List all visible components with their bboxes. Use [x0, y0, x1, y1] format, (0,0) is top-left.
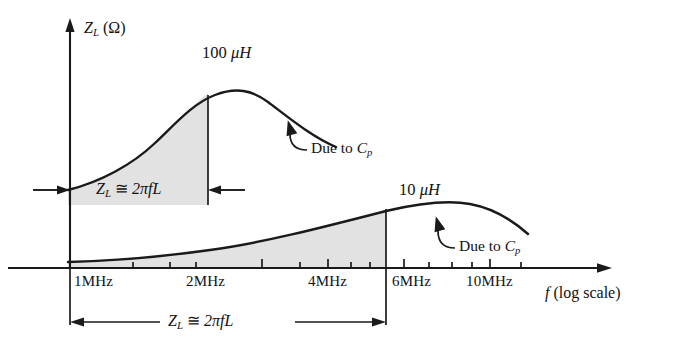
annotation-cp-10uh-subscript: p	[515, 245, 520, 256]
impedance-vs-frequency-figure: ZL (Ω) f (log scale) 1MHz 2MHz 4MHz 6MHz…	[0, 0, 677, 355]
x-axis-label-symbol: f	[545, 284, 549, 301]
curve-label-100uh-unit: μH	[231, 43, 251, 62]
x-axis-arrowhead	[597, 263, 612, 273]
x-axis-label: f (log scale)	[545, 285, 621, 301]
leader-arrowhead-cp-10uh	[430, 215, 445, 233]
annotation-due-to-cp-100uh: Due to Cp	[311, 140, 372, 158]
y-axis-label-symbol: Z	[84, 19, 93, 36]
inner-equation-lhs-subscript: L	[105, 187, 111, 199]
x-tick-label-1mhz: 1MHz	[74, 274, 113, 289]
annotation-cp-100uh-prefix: Due to	[311, 139, 357, 156]
leader-arrow-cp-10uh	[438, 231, 455, 248]
inner-equation-lhs: Z	[96, 180, 105, 197]
annotation-cp-100uh-subscript: p	[367, 147, 372, 158]
curve-label-10uh-unit: μH	[420, 180, 440, 199]
y-axis-label-subscript: L	[93, 26, 99, 38]
x-tick-label-4mhz: 4MHz	[308, 274, 347, 289]
curve-label-10uh-value: 10	[399, 180, 416, 199]
annotation-due-to-cp-10uh: Due to Cp	[459, 238, 520, 256]
inner-equation-label: ZL ≅ 2πfL	[96, 181, 161, 199]
x-tick-label-2mhz: 2MHz	[186, 274, 225, 289]
x-tick-label-6mhz: 6MHz	[392, 274, 431, 289]
y-axis-label-unit: (Ω)	[103, 19, 126, 36]
inner-equation-relation: ≅	[115, 180, 128, 197]
outer-equation-label: ZL ≅ 2πfL	[168, 313, 233, 331]
annotation-cp-10uh-symbol: C	[505, 237, 515, 254]
x-tick-label-10mhz: 10MHz	[466, 274, 513, 289]
curve-label-100uh: 100 μH	[202, 45, 251, 62]
outer-equation-lhs-subscript: L	[177, 319, 183, 331]
curve-label-10uh: 10 μH	[399, 182, 440, 199]
figure-canvas	[0, 0, 677, 355]
curve-label-100uh-value: 100	[202, 43, 227, 62]
x-axis-label-rest: (log scale)	[553, 284, 620, 301]
outer-equation-lhs: Z	[168, 312, 177, 329]
outer-equation-rhs: 2πfL	[204, 312, 233, 329]
leader-arrow-cp-100uh	[290, 134, 307, 150]
inner-equation-rhs: 2πfL	[132, 180, 161, 197]
y-axis-label: ZL (Ω)	[84, 20, 126, 38]
y-axis-arrowhead	[65, 18, 74, 32]
annotation-cp-10uh-prefix: Due to	[459, 237, 505, 254]
outer-equation-relation: ≅	[187, 312, 200, 329]
annotation-cp-100uh-symbol: C	[357, 139, 367, 156]
